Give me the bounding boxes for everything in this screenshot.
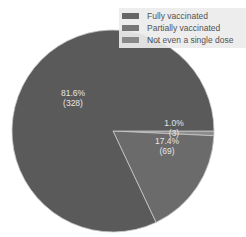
slice-label-partially: 17.4% (69) xyxy=(147,136,187,156)
legend-label: Fully vaccinated xyxy=(147,11,208,21)
legend-swatch-icon xyxy=(122,37,139,43)
count-text: (69) xyxy=(147,146,187,156)
pct-text: 1.0% xyxy=(159,118,189,128)
legend-item-partially: Partially vaccinated xyxy=(122,22,220,34)
legend-item-fully: Fully vaccinated xyxy=(122,10,208,22)
legend-label: Not even a single dose xyxy=(147,35,233,45)
count-text: (3) xyxy=(159,128,189,138)
slice-label-fully: 81.6% (328) xyxy=(53,88,93,108)
legend-item-none: Not even a single dose xyxy=(122,34,233,46)
pct-text: 81.6% xyxy=(53,88,93,98)
legend-label: Partially vaccinated xyxy=(147,23,220,33)
count-text: (328) xyxy=(53,98,93,108)
legend-swatch-icon xyxy=(122,25,139,31)
legend-swatch-icon xyxy=(122,13,139,19)
slice-label-none: 1.0% (3) xyxy=(159,118,189,138)
legend: Fully vaccinated Partially vaccinated No… xyxy=(119,8,246,48)
